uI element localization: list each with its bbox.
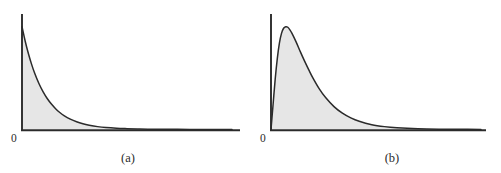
panel-b-plot	[270, 14, 486, 131]
panel-a-plot	[21, 14, 240, 131]
panel-a-area-fill	[22, 27, 232, 130]
panel-a-origin-label: 0	[11, 133, 17, 145]
panel-b-origin-label: 0	[260, 133, 266, 145]
panel-b-caption: (b)	[372, 152, 412, 165]
panel-a-caption: (a)	[108, 152, 148, 165]
figure-svg	[0, 0, 501, 173]
figure-container: 0 0 (a) (b)	[0, 0, 501, 173]
panel-b-area-fill	[271, 27, 481, 130]
